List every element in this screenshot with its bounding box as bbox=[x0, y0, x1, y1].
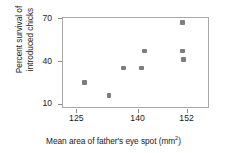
y-tick-label: 10 bbox=[30, 98, 52, 108]
data-point bbox=[82, 80, 87, 85]
scatter-chart-figure: Percent survival of introduced chicks 10… bbox=[0, 0, 227, 153]
data-point bbox=[180, 20, 185, 25]
plot-area bbox=[62, 17, 209, 108]
data-point bbox=[121, 66, 126, 71]
data-point bbox=[139, 66, 144, 71]
x-tick-label: 140 bbox=[123, 113, 153, 123]
data-point bbox=[180, 49, 185, 54]
x-axis-label-tail: ) bbox=[178, 136, 181, 146]
x-axis-label-main: Mean area of father's eye spot (mm bbox=[46, 136, 175, 146]
x-tick-label: 152 bbox=[172, 113, 202, 123]
x-tick-label: 125 bbox=[61, 113, 91, 123]
y-tick-mark bbox=[58, 18, 62, 19]
data-point bbox=[181, 57, 186, 62]
y-tick-label: 70 bbox=[30, 13, 52, 23]
y-tick-mark bbox=[58, 61, 62, 62]
data-point bbox=[142, 49, 147, 54]
x-axis-label: Mean area of father's eye spot (mm2) bbox=[0, 135, 227, 146]
y-tick-label: 40 bbox=[30, 56, 52, 66]
data-point bbox=[107, 93, 112, 98]
y-tick-mark bbox=[58, 104, 62, 105]
